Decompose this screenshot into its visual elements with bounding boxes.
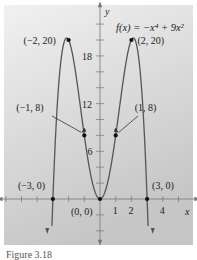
data-point (51, 197, 55, 201)
point-label: (2, 20) (137, 35, 164, 47)
y-axis-arrow-icon (98, 1, 102, 7)
data-point (114, 133, 118, 137)
y-tick-label: 18 (82, 51, 92, 62)
point-label: (3, 0) (152, 180, 174, 192)
point-label: (−1, 8) (16, 102, 43, 114)
point-label: (1, 8) (135, 102, 157, 114)
point-label: (−3, 0) (18, 180, 45, 192)
y-tick-label: 12 (82, 99, 92, 110)
point-label: (0, 0) (71, 206, 93, 218)
y-tick-label: 6 (88, 146, 93, 157)
x-axis-arrow-icon (0, 197, 3, 201)
x-axis-label: x (184, 206, 190, 217)
y-axis-label: y (104, 6, 110, 17)
data-point (145, 197, 149, 201)
x-tick-label: 1 (113, 205, 118, 216)
x-axis-arrow-icon (194, 197, 197, 201)
x-tick-label: 2 (128, 205, 133, 216)
point-label: (−2, 20) (24, 35, 56, 47)
data-point (98, 197, 102, 201)
data-point (129, 38, 133, 42)
data-point (67, 38, 71, 42)
data-point (82, 133, 86, 137)
function-equation: f(x) = −x⁴ + 9x² (116, 22, 185, 34)
figure-caption: Figure 3.18 (6, 249, 52, 260)
x-tick-label: 4 (160, 205, 165, 216)
